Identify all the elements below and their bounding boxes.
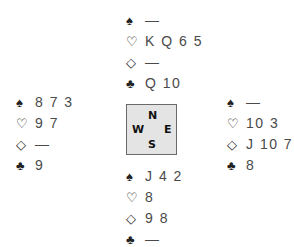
spade-icon: ♠ bbox=[126, 10, 142, 31]
west-hearts-row: ♡ 9 7 bbox=[16, 113, 74, 134]
compass-west-label: W bbox=[132, 124, 144, 135]
spade-icon: ♠ bbox=[227, 92, 243, 113]
north-diamonds-cards: — bbox=[145, 52, 161, 73]
west-clubs-cards: 9 bbox=[35, 155, 44, 176]
heart-icon: ♡ bbox=[227, 113, 243, 134]
south-diamonds-cards: 9 8 bbox=[145, 208, 169, 229]
spade-icon: ♠ bbox=[126, 166, 142, 187]
north-clubs-row: ♣ Q 10 bbox=[126, 73, 203, 94]
spade-icon: ♠ bbox=[16, 92, 32, 113]
east-clubs-row: ♣ 8 bbox=[227, 155, 293, 176]
club-icon: ♣ bbox=[16, 155, 32, 176]
south-clubs-cards: — bbox=[145, 229, 161, 247]
south-spades-row: ♠ J 4 2 bbox=[126, 166, 183, 187]
heart-icon: ♡ bbox=[16, 113, 32, 134]
west-spades-row: ♠ 8 7 3 bbox=[16, 92, 74, 113]
north-hearts-cards: K Q 6 5 bbox=[145, 31, 203, 52]
diamond-icon: ◇ bbox=[227, 134, 243, 155]
west-diamonds-row: ◇ — bbox=[16, 134, 74, 155]
north-hand: ♠ — ♡ K Q 6 5 ◇ — ♣ Q 10 bbox=[126, 10, 203, 94]
south-hearts-row: ♡ 8 bbox=[126, 187, 183, 208]
diamond-icon: ◇ bbox=[126, 52, 142, 73]
west-clubs-row: ♣ 9 bbox=[16, 155, 74, 176]
north-hearts-row: ♡ K Q 6 5 bbox=[126, 31, 203, 52]
club-icon: ♣ bbox=[227, 155, 243, 176]
north-diamonds-row: ◇ — bbox=[126, 52, 203, 73]
east-hearts-cards: 10 3 bbox=[246, 113, 279, 134]
south-spades-cards: J 4 2 bbox=[145, 166, 183, 187]
south-hand: ♠ J 4 2 ♡ 8 ◇ 9 8 ♣ — bbox=[126, 166, 183, 247]
north-spades-row: ♠ — bbox=[126, 10, 203, 31]
west-hearts-cards: 9 7 bbox=[35, 113, 59, 134]
east-hand: ♠ — ♡ 10 3 ◇ J 10 7 ♣ 8 bbox=[227, 92, 293, 176]
east-diamonds-row: ◇ J 10 7 bbox=[227, 134, 293, 155]
club-icon: ♣ bbox=[126, 73, 142, 94]
compass-east-label: E bbox=[164, 124, 172, 135]
heart-icon: ♡ bbox=[126, 31, 142, 52]
diamond-icon: ◇ bbox=[126, 208, 142, 229]
east-spades-row: ♠ — bbox=[227, 92, 293, 113]
east-clubs-cards: 8 bbox=[246, 155, 255, 176]
south-clubs-row: ♣ — bbox=[126, 229, 183, 247]
heart-icon: ♡ bbox=[126, 187, 142, 208]
east-hearts-row: ♡ 10 3 bbox=[227, 113, 293, 134]
west-hand: ♠ 8 7 3 ♡ 9 7 ◇ — ♣ 9 bbox=[16, 92, 74, 176]
west-diamonds-cards: — bbox=[35, 134, 51, 155]
north-clubs-cards: Q 10 bbox=[145, 73, 181, 94]
west-spades-cards: 8 7 3 bbox=[35, 92, 74, 113]
compass-north-label: N bbox=[148, 110, 157, 121]
south-hearts-cards: 8 bbox=[145, 187, 154, 208]
diamond-icon: ◇ bbox=[16, 134, 32, 155]
south-diamonds-row: ◇ 9 8 bbox=[126, 208, 183, 229]
compass-box: N W E S bbox=[126, 104, 177, 155]
north-spades-cards: — bbox=[145, 10, 161, 31]
east-spades-cards: — bbox=[246, 92, 262, 113]
club-icon: ♣ bbox=[126, 229, 142, 247]
compass-south-label: S bbox=[148, 139, 156, 150]
east-diamonds-cards: J 10 7 bbox=[246, 134, 293, 155]
